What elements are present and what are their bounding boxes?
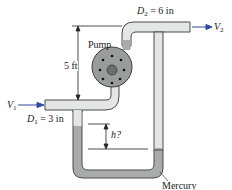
riser-mercury: [123, 40, 131, 50]
inlet-arrow: [18, 103, 44, 108]
right-manometer-leg: [154, 32, 163, 168]
d2-label: D2 = 6 in: [137, 6, 174, 18]
v1-label: V1: [7, 100, 17, 112]
height-label: 5 ft: [64, 61, 78, 71]
inlet-pipe: [45, 86, 119, 112]
diagram-canvas: [0, 0, 232, 190]
mercury-label: Mercury: [162, 181, 196, 190]
v2-label: V2: [214, 22, 224, 34]
pump: [92, 47, 132, 87]
h-label: h?: [111, 130, 121, 140]
d1-label: D1 = 3 in: [27, 114, 64, 126]
manometer-u-tube: [73, 110, 163, 178]
pump-label: Pump: [88, 40, 111, 50]
outlet-arrow: [192, 25, 212, 30]
